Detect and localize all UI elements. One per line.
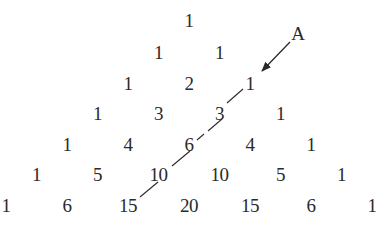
triangle-entry: 5 <box>93 165 102 184</box>
triangle-entry: 1 <box>93 104 102 123</box>
triangle-entry: 1 <box>368 196 377 215</box>
triangle-entry: 4 <box>124 135 133 154</box>
triangle-entry: 3 <box>215 104 224 123</box>
triangle-entry: 10 <box>211 165 229 184</box>
triangle-entry: 3 <box>154 104 163 123</box>
triangle-entry: 1 <box>154 43 163 62</box>
triangle-entry: 1 <box>124 74 133 93</box>
annotation-label-a: A <box>291 24 305 43</box>
triangle-entry: 2 <box>185 74 194 93</box>
triangle-entry: 20 <box>180 196 198 215</box>
triangle-entry: 6 <box>185 135 194 154</box>
triangle-entry: 1 <box>276 104 285 123</box>
triangle-entry: 6 <box>307 196 316 215</box>
triangle-entry: 1 <box>63 135 72 154</box>
triangle-entry: 1 <box>215 43 224 62</box>
triangle-entry: 1 <box>307 135 316 154</box>
triangle-entry: 6 <box>63 196 72 215</box>
triangle-entry: 15 <box>119 196 137 215</box>
arrow-icon <box>262 42 290 71</box>
triangle-entry: 4 <box>246 135 255 154</box>
triangle-entry: 15 <box>241 196 259 215</box>
triangle-entry: 1 <box>337 165 346 184</box>
triangle-entry: 10 <box>150 165 168 184</box>
pascal-triangle-diagram: 111121133114641151010511615201561 A <box>0 0 390 228</box>
triangle-entry: 1 <box>2 196 11 215</box>
triangle-entry: 5 <box>276 165 285 184</box>
triangle-entry: 1 <box>32 165 41 184</box>
triangle-entry: 1 <box>185 11 194 30</box>
triangle-entry: 1 <box>246 74 255 93</box>
